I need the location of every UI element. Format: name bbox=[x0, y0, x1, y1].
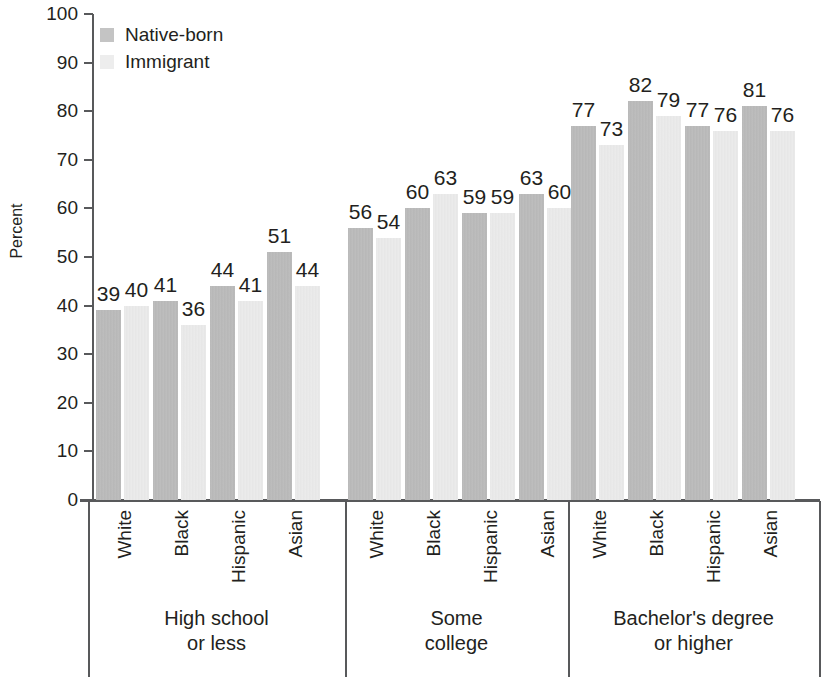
bar-slot: 41 bbox=[153, 14, 178, 500]
bar-value-label: 54 bbox=[368, 211, 409, 232]
bar[interactable] bbox=[124, 306, 149, 500]
group-title: High schoolor less bbox=[88, 606, 345, 656]
bar-slot: 77 bbox=[685, 14, 710, 500]
bar-slot: 60 bbox=[547, 14, 572, 500]
bar-slot: 44 bbox=[210, 14, 235, 500]
bar-value-label: 76 bbox=[762, 104, 803, 125]
bar-chart: Percent 0102030405060708090100 Native-bo… bbox=[0, 0, 825, 677]
bar-group: 3940413644415144 bbox=[96, 14, 324, 500]
y-axis-tick bbox=[84, 159, 93, 161]
group-separator bbox=[819, 501, 821, 677]
bar-slot: 40 bbox=[124, 14, 149, 500]
bar[interactable] bbox=[519, 194, 544, 500]
bar[interactable] bbox=[462, 213, 487, 500]
bar-value-label: 44 bbox=[287, 259, 328, 280]
bar-value-label: 73 bbox=[591, 118, 632, 139]
bar-value-label: 81 bbox=[734, 79, 775, 100]
bar[interactable] bbox=[433, 194, 458, 500]
bar-value-label: 59 bbox=[482, 186, 523, 207]
group-label-frame: High schoolor lessSomecollegeBachelor's … bbox=[88, 501, 821, 677]
bar[interactable] bbox=[628, 101, 653, 500]
group-title-line: High school bbox=[88, 606, 345, 631]
bar-slot: 59 bbox=[490, 14, 515, 500]
bar-slot: 63 bbox=[519, 14, 544, 500]
y-axis-tick bbox=[84, 62, 93, 64]
bar[interactable] bbox=[210, 286, 235, 500]
y-axis-tick bbox=[84, 256, 93, 258]
y-axis-tick-label: 10 bbox=[26, 441, 78, 460]
y-axis-tick bbox=[84, 305, 93, 307]
bar-slot: 60 bbox=[405, 14, 430, 500]
bar-slot: 76 bbox=[770, 14, 795, 500]
bar[interactable] bbox=[376, 238, 401, 500]
y-axis-tick bbox=[84, 450, 93, 452]
bar-value-label: 51 bbox=[259, 225, 300, 246]
y-axis-tick-label: 50 bbox=[26, 247, 78, 266]
bar[interactable] bbox=[571, 126, 596, 500]
bar[interactable] bbox=[547, 208, 572, 500]
bar-slot: 41 bbox=[238, 14, 263, 500]
bar-value-label: 77 bbox=[563, 99, 604, 120]
bar[interactable] bbox=[238, 301, 263, 500]
bar[interactable] bbox=[770, 131, 795, 500]
group-title: Somecollege bbox=[345, 606, 568, 656]
group-title-line: or less bbox=[88, 631, 345, 656]
y-axis-tick-label: 70 bbox=[26, 150, 78, 169]
bar-value-label: 76 bbox=[705, 104, 746, 125]
group-title-line: or higher bbox=[568, 631, 819, 656]
bar[interactable] bbox=[295, 286, 320, 500]
bar-group: 7773827977768176 bbox=[571, 14, 799, 500]
bar-slot: 63 bbox=[433, 14, 458, 500]
bar-slot: 77 bbox=[571, 14, 596, 500]
y-axis-tick-label: 90 bbox=[26, 53, 78, 72]
y-axis-tick bbox=[84, 13, 93, 15]
bar-slot: 82 bbox=[628, 14, 653, 500]
bar[interactable] bbox=[490, 213, 515, 500]
y-axis-tick-labels: 0102030405060708090100 bbox=[18, 0, 78, 501]
plot-area: 3940413644415144565460635959636077738279… bbox=[93, 14, 820, 500]
bar[interactable] bbox=[742, 106, 767, 500]
bar[interactable] bbox=[713, 131, 738, 500]
bar-slot: 59 bbox=[462, 14, 487, 500]
group-title-line: Bachelor's degree bbox=[568, 606, 819, 631]
bar-slot: 79 bbox=[656, 14, 681, 500]
y-axis-tick-label: 60 bbox=[26, 198, 78, 217]
y-axis-tick bbox=[84, 207, 93, 209]
bar[interactable] bbox=[153, 301, 178, 500]
bar-value-label: 41 bbox=[145, 274, 186, 295]
bar-value-label: 41 bbox=[230, 274, 271, 295]
bar-slot: 36 bbox=[181, 14, 206, 500]
y-axis-tick-label: 100 bbox=[26, 4, 78, 23]
y-axis-tick-label: 20 bbox=[26, 393, 78, 412]
bar-value-label: 63 bbox=[425, 167, 466, 188]
bar[interactable] bbox=[599, 145, 624, 500]
bar-slot: 56 bbox=[348, 14, 373, 500]
y-axis-tick bbox=[84, 110, 93, 112]
y-axis-tick-label: 80 bbox=[26, 101, 78, 120]
bar[interactable] bbox=[96, 310, 121, 500]
y-axis-tick-label: 0 bbox=[26, 490, 78, 509]
bar-group: 5654606359596360 bbox=[348, 14, 576, 500]
y-axis-tick bbox=[84, 353, 93, 355]
y-axis-tick bbox=[84, 402, 93, 404]
bar[interactable] bbox=[405, 208, 430, 500]
bar-value-label: 36 bbox=[173, 298, 214, 319]
bar-slot: 39 bbox=[96, 14, 121, 500]
bar-slot: 44 bbox=[295, 14, 320, 500]
bar-slot: 81 bbox=[742, 14, 767, 500]
y-axis-tick-label: 30 bbox=[26, 344, 78, 363]
group-title: Bachelor's degreeor higher bbox=[568, 606, 819, 656]
bar[interactable] bbox=[348, 228, 373, 500]
bar[interactable] bbox=[267, 252, 292, 500]
bar[interactable] bbox=[685, 126, 710, 500]
y-axis-tick-label: 40 bbox=[26, 296, 78, 315]
group-title-line: college bbox=[345, 631, 568, 656]
group-title-line: Some bbox=[345, 606, 568, 631]
bar-slot: 51 bbox=[267, 14, 292, 500]
bar[interactable] bbox=[181, 325, 206, 500]
bar-slot: 54 bbox=[376, 14, 401, 500]
bar[interactable] bbox=[656, 116, 681, 500]
